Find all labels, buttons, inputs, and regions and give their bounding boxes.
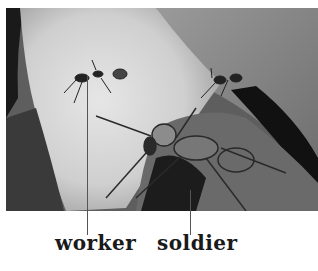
worker-label: worker <box>55 231 136 255</box>
photo-illustration <box>6 8 318 211</box>
ant-photograph <box>6 8 318 211</box>
worker-leader-line <box>87 75 88 235</box>
soldier-label: soldier <box>157 231 238 255</box>
soldier-leader-line <box>190 190 191 235</box>
